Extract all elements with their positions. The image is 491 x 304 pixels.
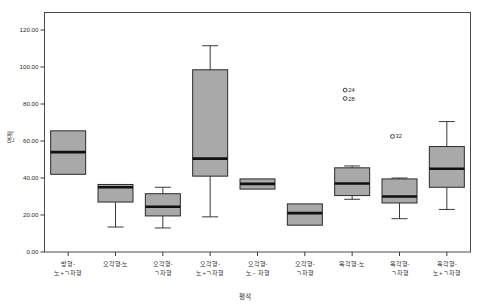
x-tick-label: 육각형- xyxy=(390,260,410,268)
outlier-label: 32 xyxy=(396,133,402,139)
outlier-label: 28 xyxy=(348,96,354,102)
y-tick-label: 120.00 xyxy=(20,26,39,33)
x-tick-label: ㄱ자형 xyxy=(154,269,172,277)
x-tick-label: 오각형- xyxy=(200,260,220,268)
box-iqr xyxy=(382,179,417,203)
boxplot-chart: 120.00100.0080.0060.0040.0020.000.00 242… xyxy=(0,0,491,304)
y-tick-label: 80.00 xyxy=(23,100,39,107)
y-tick-label: 0.00 xyxy=(26,248,39,255)
box-group xyxy=(335,166,370,199)
x-tick-label: 오각형-노 xyxy=(103,260,129,268)
y-tick-label: 100.00 xyxy=(20,63,39,70)
box-iqr xyxy=(287,204,322,225)
box-group xyxy=(287,204,322,225)
x-tick-label: 오각형- xyxy=(295,260,315,268)
y-tick-label: 40.00 xyxy=(23,174,39,181)
box-iqr xyxy=(145,194,180,216)
x-tick-label: 노+ㄱ자형 xyxy=(196,269,224,277)
x-tick-label: ㄱ자형 xyxy=(391,269,409,277)
x-tick-label: 노←자형 xyxy=(246,269,270,277)
box-group xyxy=(240,179,275,189)
box-iqr xyxy=(335,168,370,196)
chart-canvas: 120.00100.0080.0060.0040.0020.000.00 242… xyxy=(0,0,491,304)
y-axis-title: 면적 xyxy=(6,131,15,143)
x-tick-label: 노+ㄱ자형 xyxy=(433,269,461,277)
x-axis-title: 평석 xyxy=(239,292,251,301)
x-tick-label: 오각형- xyxy=(248,260,268,268)
y-tick-label: 60.00 xyxy=(23,137,39,144)
y-tick-label: 20.00 xyxy=(23,211,39,218)
outlier-label: 24 xyxy=(348,87,355,93)
box-group xyxy=(51,131,86,174)
box-iqr xyxy=(429,147,464,188)
x-tick-label: 육각형-노 xyxy=(339,260,365,268)
x-tick-label: 오각형- xyxy=(153,260,173,268)
x-tick-label: 육각형- xyxy=(437,260,457,268)
box-iqr xyxy=(193,70,228,176)
x-tick-label: 방형- xyxy=(61,260,75,267)
x-tick-label: ㄱ자형 xyxy=(296,269,314,277)
x-tick-label: 노+ㄱ자형 xyxy=(54,269,82,277)
